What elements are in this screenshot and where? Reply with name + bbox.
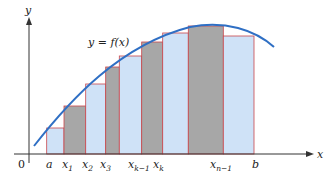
y-axis-label: y bbox=[24, 4, 32, 17]
rectangle bbox=[188, 26, 223, 154]
rectangle bbox=[142, 42, 163, 154]
tick-label: a bbox=[46, 158, 53, 171]
y-axis-arrow-icon bbox=[26, 17, 32, 25]
x-axis-label: x bbox=[317, 148, 324, 161]
riemann-sum-diagram: y x 0 y = f(x) ax1x2x3xk−1xkxn−1b bbox=[0, 0, 325, 175]
rectangle bbox=[223, 36, 254, 154]
tick-label: x2 bbox=[82, 158, 93, 173]
tick-label: x3 bbox=[100, 158, 111, 173]
rectangles bbox=[47, 26, 254, 154]
x-axis-arrow-icon bbox=[306, 151, 314, 157]
rectangle bbox=[106, 67, 120, 154]
tick-label: xk bbox=[153, 158, 164, 173]
rectangle bbox=[119, 56, 141, 154]
tick-labels: ax1x2x3xk−1xkxn−1b bbox=[46, 158, 259, 173]
tick-label: xk−1 bbox=[128, 158, 150, 173]
rectangle bbox=[163, 33, 189, 154]
rectangle bbox=[86, 84, 106, 154]
tick-label: b bbox=[252, 158, 259, 171]
tick-label: x1 bbox=[62, 158, 73, 173]
rectangle bbox=[64, 106, 86, 154]
rectangle bbox=[47, 128, 64, 154]
origin-label: 0 bbox=[18, 158, 25, 171]
tick-label: xn−1 bbox=[210, 158, 232, 173]
curve-label: y = f(x) bbox=[87, 36, 129, 49]
